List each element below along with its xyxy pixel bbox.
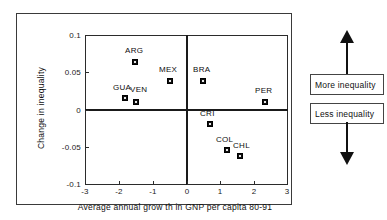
x-tick-mark (153, 181, 154, 185)
zero-vertical-axis-line (186, 35, 188, 185)
data-point-marker (133, 99, 139, 105)
data-point-marker (237, 153, 243, 159)
y-tick-label: 0 (47, 106, 81, 115)
y-tick-label: 0.1 (47, 31, 81, 40)
y-tick-label: -0.1 (47, 180, 81, 189)
data-point-marker (132, 59, 138, 65)
x-tick-label: -1 (141, 187, 165, 196)
x-tick-label: 1 (208, 187, 232, 196)
data-point-marker (262, 99, 268, 105)
data-point-label: ARG (125, 46, 143, 55)
data-point-label: COL (216, 135, 233, 144)
arrow-up-stem (346, 42, 348, 76)
x-tick-label: -2 (107, 187, 131, 196)
y-tick-mark (85, 147, 89, 148)
data-point-label: BRA (193, 65, 210, 74)
x-tick-label: 0 (175, 187, 199, 196)
chart-outer-box: -3 -2 -1 0 1 2 3 0.1 0.05 0 -0.05 -0.1 A… (16, 13, 292, 205)
legend-less-inequality-label: Less inequality (315, 109, 374, 119)
x-tick-mark (187, 181, 188, 185)
x-tick-mark (287, 181, 288, 185)
data-point-label: GUA (113, 83, 131, 92)
arrow-down-icon (340, 152, 354, 165)
y-tick-mark (85, 35, 89, 36)
x-axis-title: Average annual grow th in GNP per capita… (55, 202, 295, 212)
legend-more-inequality-label: More inequality (315, 80, 376, 90)
x-tick-mark (220, 181, 221, 185)
arrow-down-stem (346, 122, 348, 154)
x-tick-label: 3 (275, 187, 299, 196)
inequality-direction-legend: More inequality Less inequality (306, 20, 386, 200)
data-point-label: CHL (233, 141, 250, 150)
data-point-label: PER (255, 86, 272, 95)
data-point-marker (167, 78, 173, 84)
legend-less-inequality: Less inequality (310, 103, 384, 124)
data-point-label: MEX (159, 65, 177, 74)
x-tick-mark (119, 181, 120, 185)
y-axis-title: Change in inequality (36, 48, 46, 168)
y-tick-mark (85, 110, 89, 111)
data-point-label: CRI (200, 109, 215, 118)
y-tick-mark (85, 184, 89, 185)
y-tick-label: 0.05 (47, 68, 81, 77)
y-tick-mark (85, 72, 89, 73)
y-tick-label: -0.05 (47, 143, 81, 152)
x-tick-label: 2 (242, 187, 266, 196)
data-point-marker (200, 78, 206, 84)
x-tick-mark (254, 181, 255, 185)
data-point-marker (224, 147, 230, 153)
data-point-marker (122, 95, 128, 101)
data-point-marker (207, 121, 213, 127)
data-point-label: VEN (130, 85, 147, 94)
scatter-chart-figure: -3 -2 -1 0 1 2 3 0.1 0.05 0 -0.05 -0.1 A… (0, 0, 387, 220)
legend-more-inequality: More inequality (310, 74, 384, 95)
